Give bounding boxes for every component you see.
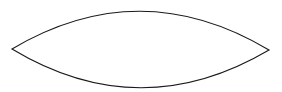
diagram-canvas <box>0 0 282 92</box>
lens-shape <box>12 11 269 88</box>
lens-diagram <box>0 0 282 92</box>
